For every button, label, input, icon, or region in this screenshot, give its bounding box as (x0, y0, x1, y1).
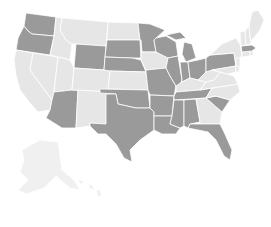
us-map-svg (0, 0, 271, 227)
state-NM[interactable] (76, 90, 108, 128)
state-DE[interactable] (236, 66, 239, 72)
state-SD[interactable] (105, 40, 141, 58)
state-AK[interactable] (18, 140, 80, 194)
state-KS[interactable] (108, 71, 148, 90)
state-UT[interactable] (54, 57, 74, 92)
state-HI[interactable] (78, 180, 102, 197)
state-FL[interactable] (188, 124, 232, 160)
state-AR[interactable] (150, 95, 174, 116)
state-WY[interactable] (74, 44, 106, 70)
state-MA[interactable] (241, 45, 256, 52)
state-CO[interactable] (72, 68, 110, 92)
us-map (0, 0, 271, 227)
state-RI[interactable] (250, 51, 253, 56)
state-ND[interactable] (107, 22, 140, 40)
state-ME[interactable] (249, 10, 264, 44)
state-NE[interactable] (104, 57, 146, 72)
